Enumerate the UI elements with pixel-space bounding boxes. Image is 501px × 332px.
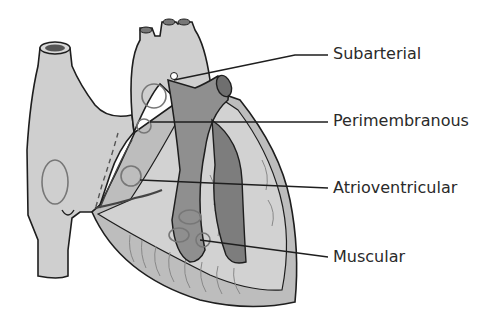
label-subarterial: Subarterial [333, 46, 421, 62]
heart-diagram [0, 0, 501, 332]
label-atrioventricular: Atrioventricular [333, 180, 457, 196]
label-muscular: Muscular [333, 249, 405, 265]
label-perimembranous: Perimembranous [333, 113, 469, 129]
